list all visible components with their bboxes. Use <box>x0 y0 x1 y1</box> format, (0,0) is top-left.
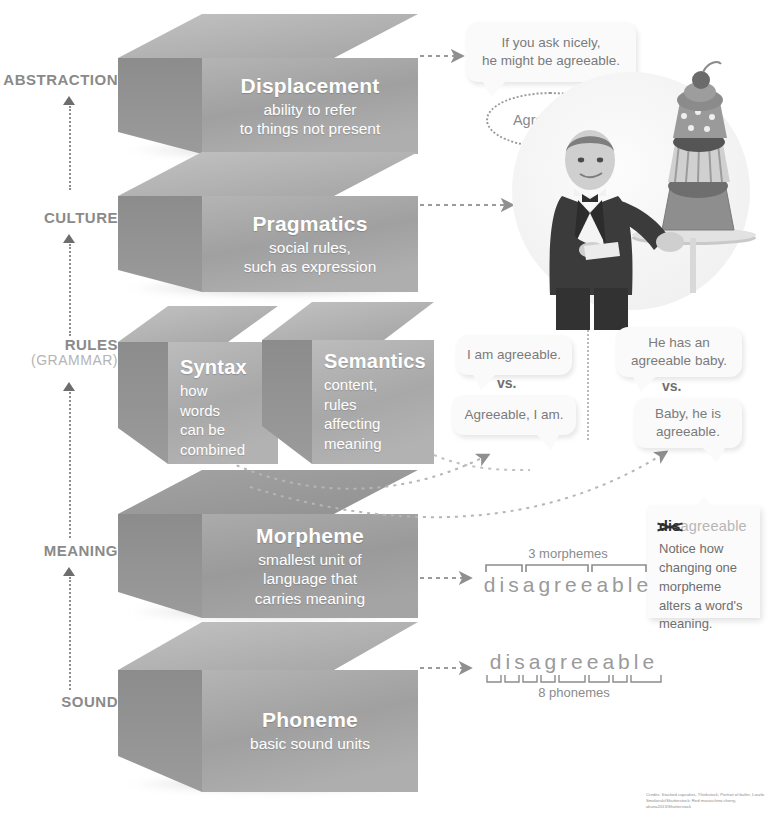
vs-label-semantics: vs. <box>662 378 681 394</box>
axis-label-culture: CULTURE <box>0 210 118 226</box>
axis-label-rules: RULES (GRAMMAR) <box>0 337 118 367</box>
credits-text: Credits: Stacked cupcakes, Thinkstock; P… <box>646 792 766 810</box>
axis-track-4 <box>69 577 71 690</box>
note-card-morpheme: disagreeable Notice how changing one mor… <box>648 506 760 618</box>
block-desc: basic sound units <box>250 734 370 753</box>
bubble-syntax-b: Agreeable, I am. <box>452 395 576 435</box>
block-morpheme-label: Morpheme smallest unit of language that … <box>202 514 418 618</box>
cupcake-stack-icon <box>662 62 734 230</box>
block-semantics: Semantics content, rules affecting meani… <box>262 302 434 470</box>
morpheme-word: disagreeable <box>478 573 658 597</box>
connector-semantics-short <box>434 455 530 470</box>
vs-label-syntax: vs. <box>497 375 516 391</box>
phoneme-brackets <box>485 674 663 684</box>
axis-arrow-abstraction <box>63 96 75 105</box>
axis-label-sound: SOUND <box>0 694 118 710</box>
axis-label-rules-sub: (GRAMMAR) <box>0 353 118 368</box>
phoneme-breakdown: disagreeable 8 phonemes <box>478 650 670 700</box>
block-pragmatics: Pragmatics social rules, such as express… <box>118 152 418 292</box>
axis-label-meaning: MEANING <box>0 543 118 559</box>
block-title: Morpheme <box>256 524 364 548</box>
morpheme-breakdown: 3 morphemes disagreeable <box>478 546 658 597</box>
bubble-syntax-a: I am agreeable. <box>456 335 572 375</box>
axis-arrow-rules <box>63 382 75 391</box>
axis-label-culture-text: CULTURE <box>44 209 118 226</box>
block-desc: social rules, such as expression <box>244 238 377 277</box>
block-title: Semantics <box>324 350 426 373</box>
phoneme-caption: 8 phonemes <box>478 685 670 700</box>
block-displacement: Displacement ability to refer to things … <box>118 14 418 154</box>
phoneme-word: disagreeable <box>478 650 670 674</box>
axis-track-2 <box>69 244 71 336</box>
axis-track-3 <box>69 392 71 538</box>
hand-icon <box>656 232 684 252</box>
bubble-semantics-b: Baby, he is agreeable. <box>634 398 742 448</box>
block-desc: how words can be combined <box>180 381 245 459</box>
axis-label-abstraction: ABSTRACTION <box>0 72 118 88</box>
axis-label-abstraction-text: ABSTRACTION <box>3 71 118 88</box>
bubble-semantics-b-text: Baby, he is agreeable. <box>655 405 721 441</box>
axis-arrow-culture <box>63 234 75 243</box>
axis-arrow-meaning <box>63 567 75 576</box>
axis-label-rules-text: RULES <box>65 336 118 353</box>
bubble-syntax-a-text: I am agreeable. <box>467 346 561 364</box>
block-desc: content, rules affecting meaning <box>324 375 382 453</box>
block-pragmatics-label: Pragmatics social rules, such as express… <box>202 196 418 292</box>
morpheme-brackets <box>484 563 652 573</box>
note-rest-agreeable: agreeable <box>681 518 747 534</box>
block-displacement-label: Displacement ability to refer to things … <box>202 58 418 154</box>
block-title: Displacement <box>241 74 380 98</box>
axis-label-sound-text: SOUND <box>61 693 118 710</box>
bubble-pair-divider <box>587 330 589 440</box>
cherry-icon <box>692 71 710 89</box>
note-card-body: Notice how changing one morpheme alters … <box>659 540 749 634</box>
note-strike-dis: dis <box>659 518 681 534</box>
bubble-semantics-a-text: He has an agreeable baby. <box>631 334 727 370</box>
butler-photo-illustration <box>512 60 772 330</box>
block-title: Syntax <box>180 356 247 379</box>
block-semantics-label: Semantics content, rules affecting meani… <box>314 338 434 464</box>
axis-label-meaning-text: MEANING <box>44 542 118 559</box>
block-phoneme-label: Phoneme basic sound units <box>202 670 418 792</box>
block-desc: ability to refer to things not present <box>240 100 380 139</box>
morpheme-caption: 3 morphemes <box>478 546 658 561</box>
axis-track-1 <box>69 106 71 190</box>
note-card-header: disagreeable <box>659 518 749 534</box>
block-title: Phoneme <box>262 708 358 732</box>
block-title: Pragmatics <box>252 212 367 236</box>
vs-label-semantics-text: vs. <box>662 378 681 394</box>
block-morpheme: Morpheme smallest unit of language that … <box>118 470 418 618</box>
block-phoneme: Phoneme basic sound units <box>118 622 418 792</box>
infographic-canvas: ABSTRACTION CULTURE RULES (GRAMMAR) MEAN… <box>0 0 772 816</box>
bubble-semantics-a: He has an agreeable baby. <box>616 327 742 377</box>
vs-label-syntax-text: vs. <box>497 375 516 391</box>
bubble-syntax-b-text: Agreeable, I am. <box>464 406 563 424</box>
block-syntax: Syntax how words can be combined <box>118 306 278 466</box>
block-desc: smallest unit of language that carries m… <box>255 550 365 608</box>
